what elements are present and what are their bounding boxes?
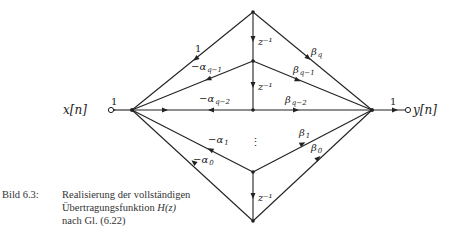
feedforward-branch-beta-0 [253,110,372,221]
ellipsis: ⋮ [250,136,261,149]
input-gain: 1 [111,96,117,107]
feedforward-label-beta-q: βq [310,46,323,59]
delay-label-1: z⁻¹ [257,36,273,47]
caption-line-1: Realisierung der vollständigen [62,188,190,201]
feedforward-label-beta-q-1: βq−1 [292,64,315,77]
feedforward-branch-beta-q [253,12,372,110]
delay-node-2 [251,108,255,112]
delay-node-q [251,219,255,223]
input-label: x[n] [63,103,87,117]
caption-line-3: nach Gl. (6.22) [2,214,190,227]
output-gain: 1 [390,96,396,107]
output-label: y[n] [412,103,437,117]
delay-node-q-1 [251,170,255,174]
delay-node-0 [251,10,255,14]
feedforward-label-beta-0: β0 [310,142,323,155]
figure-caption: Bild 6.3: Realisierung der vollständigen… [2,188,190,227]
feedback-label-alpha-1: −α1 [208,134,229,147]
delay-label-3: z⁻¹ [257,192,273,203]
feedback-label-alpha-q-2: −αq−2 [199,93,230,106]
delay-node-1 [251,59,255,63]
feedforward-branch-beta-1 [253,110,372,172]
right-sum-node [370,108,374,112]
input-terminal [108,107,113,112]
feedback-label-alpha-0: −α0 [193,154,214,167]
caption-line-2: Übertragungsfunktion H(z) [2,201,190,214]
caption-number: Bild 6.3: [2,188,62,201]
feedback-label-1: 1 [195,43,201,54]
left-sum-node [130,108,134,112]
feedforward-label-beta-q-2: βq−2 [284,94,307,107]
output-terminal [405,107,410,112]
feedback-label-alpha-q-1: −αq−1 [191,61,222,74]
feedforward-label-beta-1: β1 [298,127,310,140]
delay-label-2: z⁻¹ [257,81,273,92]
